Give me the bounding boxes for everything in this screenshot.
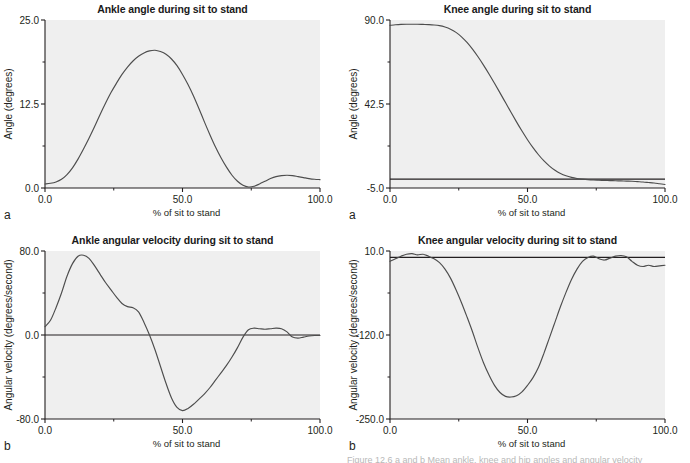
plot-background bbox=[45, 20, 320, 188]
xaxis-label-ankle-angle: % of sit to stand bbox=[14, 207, 359, 218]
ytick-label: 0.0 bbox=[25, 183, 39, 194]
chart-ankle-angular-velocity: -80.00.080.00.050.0100.0Angular velocity… bbox=[0, 231, 345, 462]
chart-knee-angle: -5.042.590.00.050.0100.0Angle (degrees) bbox=[345, 0, 690, 231]
ytick-label: -5.0 bbox=[367, 183, 385, 194]
xtick-label: 50.0 bbox=[173, 194, 193, 205]
xtick-label: 0.0 bbox=[38, 194, 52, 205]
ytick-label: -120.0 bbox=[356, 330, 385, 341]
panel-ankle-angle: Ankle angle during sit to stand 0.012.52… bbox=[0, 0, 345, 231]
ytick-label: 42.5 bbox=[365, 99, 385, 110]
panel-knee-angular-velocity: Knee angular velocity during sit to stan… bbox=[345, 231, 690, 462]
plot-background bbox=[390, 251, 665, 419]
xtick-label: 50.0 bbox=[518, 425, 538, 436]
plot-background bbox=[390, 20, 665, 188]
yaxis-label: Angle (degrees) bbox=[3, 68, 14, 139]
panel-letter-a-right: a bbox=[349, 208, 356, 222]
ytick-label: 0.0 bbox=[25, 330, 39, 341]
panel-knee-angle: Knee angle during sit to stand -5.042.59… bbox=[345, 0, 690, 231]
xtick-label: 100.0 bbox=[652, 425, 677, 436]
panel-letter-b-left: b bbox=[4, 439, 11, 453]
xaxis-label-knee-velocity: % of sit to stand bbox=[359, 438, 690, 449]
xtick-label: 100.0 bbox=[652, 194, 677, 205]
yaxis-label: Angular velocity (degrees/second) bbox=[348, 259, 359, 410]
chart-ankle-angle: 0.012.525.00.050.0100.0Angle (degrees) bbox=[0, 0, 345, 231]
xtick-label: 50.0 bbox=[173, 425, 193, 436]
ytick-label: -80.0 bbox=[16, 414, 39, 425]
ytick-label: 90.0 bbox=[365, 15, 385, 26]
ytick-label: 10.0 bbox=[365, 246, 385, 257]
yaxis-label: Angular velocity (degrees/second) bbox=[3, 259, 14, 410]
ytick-label: 12.5 bbox=[20, 99, 40, 110]
xtick-label: 0.0 bbox=[383, 194, 397, 205]
yaxis-label: Angle (degrees) bbox=[348, 68, 359, 139]
xtick-label: 100.0 bbox=[307, 425, 332, 436]
panel-ankle-angular-velocity: Ankle angular velocity during sit to sta… bbox=[0, 231, 345, 462]
chart-knee-angular-velocity: -250.0-120.010.00.050.0100.0Angular velo… bbox=[345, 231, 690, 462]
figure-caption-fragment: Figure 12.6 a and b Mean ankle, knee and… bbox=[347, 455, 687, 463]
xtick-label: 0.0 bbox=[38, 425, 52, 436]
ytick-label: -250.0 bbox=[356, 414, 385, 425]
panel-letter-b-right: b bbox=[349, 439, 356, 453]
xaxis-label-knee-angle: % of sit to stand bbox=[359, 207, 690, 218]
xtick-label: 100.0 bbox=[307, 194, 332, 205]
xtick-label: 50.0 bbox=[518, 194, 538, 205]
ytick-label: 80.0 bbox=[20, 246, 40, 257]
panel-letter-a-left: a bbox=[4, 208, 11, 222]
xtick-label: 0.0 bbox=[383, 425, 397, 436]
ytick-label: 25.0 bbox=[20, 15, 40, 26]
xaxis-label-ankle-velocity: % of sit to stand bbox=[14, 438, 359, 449]
